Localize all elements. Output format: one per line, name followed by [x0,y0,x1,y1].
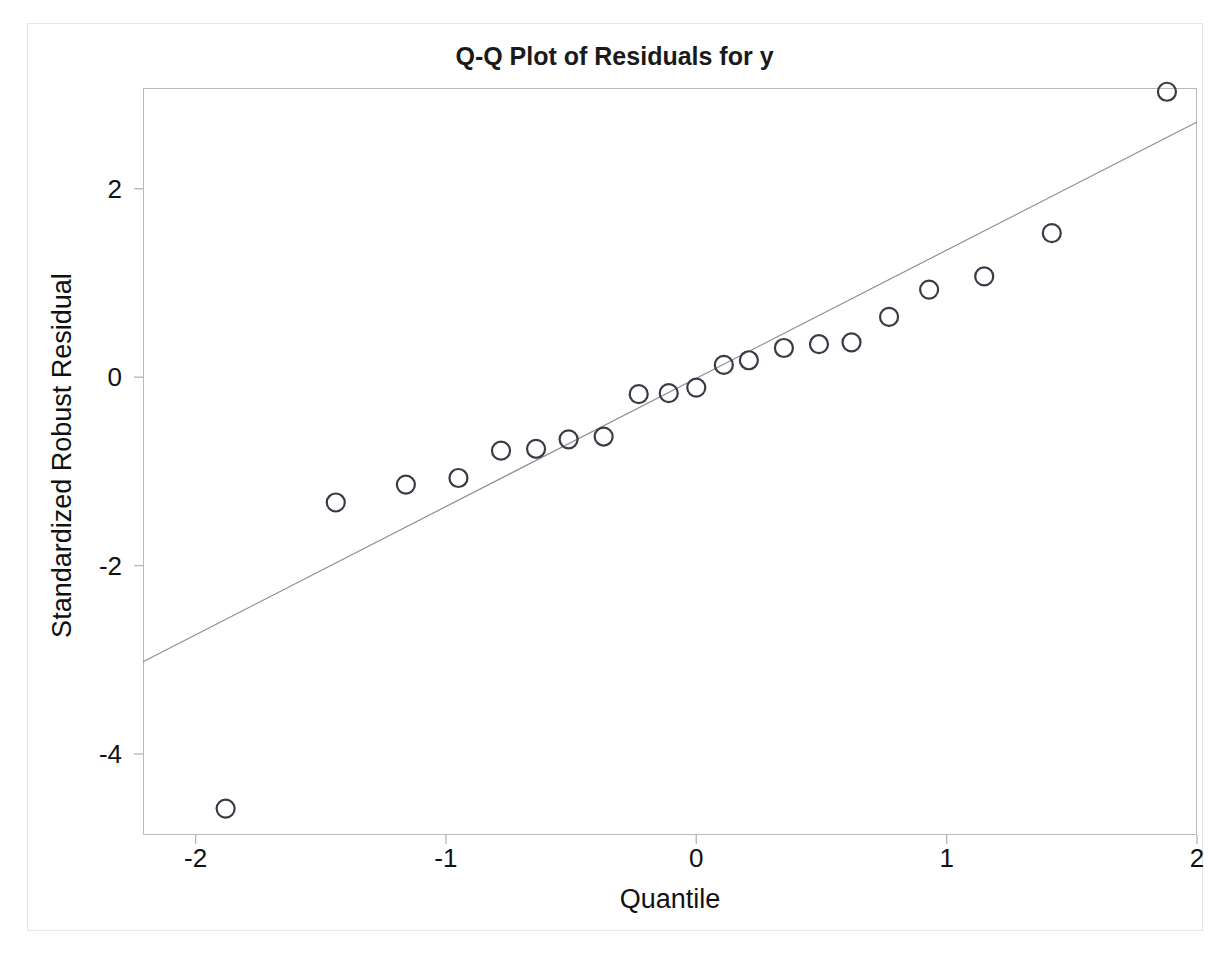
data-point [687,379,705,397]
data-point [527,440,545,458]
data-point [975,267,993,285]
x-axis-title: Quantile [143,884,1197,915]
x-tick-label: -2 [184,843,207,874]
reference-line [143,122,1197,662]
y-tick-label: -2 [62,550,122,581]
y-axis-title: Standardized Robust Residual [47,176,78,736]
x-tick-label: 0 [689,843,703,874]
data-point [843,333,861,351]
data-point [397,476,415,494]
data-point [920,281,938,299]
figure-page: Q-Q Plot of Residuals for y Standardized… [0,0,1229,964]
data-point [775,339,793,357]
data-point [595,428,613,446]
data-point [715,356,733,374]
y-tick-label: 2 [62,173,122,204]
data-point [492,442,510,460]
chart-title: Q-Q Plot of Residuals for y [0,42,1229,71]
plot-canvas [143,88,1197,835]
data-point [660,384,678,402]
data-point [630,385,648,403]
data-point [327,493,345,511]
y-tick-label: -4 [62,738,122,769]
x-tick-label: 1 [939,843,953,874]
plot-area [143,88,1197,835]
data-point [449,469,467,487]
x-tick-label: -1 [434,843,457,874]
data-point [1043,224,1061,242]
data-point [880,308,898,326]
data-point [217,800,235,818]
data-point [560,430,578,448]
data-point [740,351,758,369]
y-tick-label: 0 [62,362,122,393]
data-point [810,335,828,353]
x-tick-label: 2 [1190,843,1204,874]
